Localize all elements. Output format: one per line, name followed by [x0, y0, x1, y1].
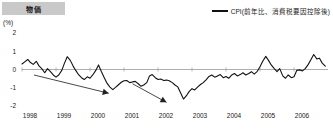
- y-axis-tick-label: 2: [12, 29, 16, 36]
- chart-plot-area: 210-1-2 19981999200020012002200320042005…: [0, 0, 333, 131]
- x-axis-tick-label: 2003: [193, 112, 208, 119]
- downtrend-arrow-1-head-icon: [102, 89, 109, 95]
- downtrend-arrow-1: [34, 75, 109, 93]
- price-index-chart: 物価 CPI(前年比、消費税要因控除後) (%) 210-1-2 1998199…: [0, 0, 333, 131]
- x-axis-tick-label: 2000: [91, 112, 106, 119]
- y-axis-tick-label: 1: [12, 48, 16, 55]
- trend-annotation-arrows: [34, 75, 167, 102]
- cpi-series-line: [22, 55, 325, 100]
- x-axis-tick-label: 2004: [227, 112, 242, 119]
- x-axis-tick-label: 2001: [125, 112, 140, 119]
- x-axis-tick-label: 1999: [57, 112, 72, 119]
- x-axis-tick-labels: 199819992000200120022003200420052006: [23, 112, 310, 119]
- y-axis-tick-label: -1: [10, 84, 16, 91]
- x-axis-tick-label: 2006: [295, 112, 310, 119]
- y-axis-tick-label: -2: [10, 102, 16, 109]
- x-axis-tick-label: 1998: [23, 112, 38, 119]
- x-axis-tick-label: 2005: [261, 112, 276, 119]
- y-axis-tick-labels: 210-1-2: [10, 29, 16, 109]
- y-axis-tick-label: 0: [12, 66, 16, 73]
- x-axis-tick-label: 2002: [159, 112, 174, 119]
